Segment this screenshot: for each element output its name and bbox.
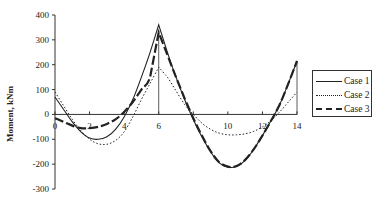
x-tick-label: 6: [156, 121, 161, 131]
y-axis-label: Moment, kNm: [5, 86, 15, 142]
x-tick-label: 2: [87, 121, 92, 131]
legend: Case 1 Case 2 Case 3: [312, 70, 372, 117]
legend-item-case-1: Case 1: [316, 74, 372, 88]
dashed-line-swatch-icon: [316, 108, 342, 110]
legend-label: Case 2: [344, 90, 370, 100]
y-tick-label: 200: [36, 60, 50, 70]
legend-item-case-3: Case 3: [316, 102, 372, 116]
y-tick-label: -200: [33, 159, 50, 169]
series-line-case-3: [55, 32, 297, 167]
y-tick-label: -300: [33, 184, 50, 194]
x-tick-label: 4: [122, 121, 127, 131]
legend-label: Case 3: [344, 104, 370, 114]
series-line-case-2: [55, 67, 297, 144]
x-tick-label: 14: [293, 121, 303, 131]
solid-line-swatch-icon: [316, 81, 342, 82]
x-tick-label: 10: [223, 121, 233, 131]
series-line-case-1: [55, 25, 297, 168]
y-tick-label: 300: [36, 35, 50, 45]
dotted-line-swatch-icon: [316, 95, 342, 96]
y-tick-label: 400: [36, 10, 50, 20]
y-tick-label: -100: [33, 134, 50, 144]
x-tick-label: 0: [53, 121, 58, 131]
y-tick-label: 0: [45, 109, 50, 119]
y-tick-label: 100: [36, 85, 50, 95]
legend-label: Case 1: [344, 76, 370, 86]
series-group: [55, 25, 297, 168]
legend-item-case-2: Case 2: [316, 88, 372, 102]
y-axis: 4003002001000-100-200-300: [33, 10, 56, 194]
